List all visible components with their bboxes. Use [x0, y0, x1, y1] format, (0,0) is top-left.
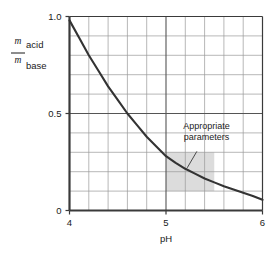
figure-container: 45600.51.0 Appropriate parameters pH m a… [0, 0, 279, 258]
ph-ratio-chart: 45600.51.0 Appropriate parameters pH m a… [0, 0, 279, 258]
fraction-numerator-subscript: acid [26, 39, 43, 50]
annotation-line-1: Appropriate [183, 121, 230, 131]
fraction-denominator-subscript: base [26, 60, 47, 71]
annotation-line-2: parameters [184, 132, 230, 142]
x-tick-label: 5 [163, 217, 168, 228]
x-axis-label: pH [160, 233, 172, 244]
fraction-denominator-symbol: m [15, 55, 22, 65]
x-tick-label: 6 [260, 217, 265, 228]
y-tick-label: 0 [56, 205, 61, 216]
fraction-numerator-symbol: m [15, 36, 22, 46]
y-tick-label: 0.5 [48, 108, 61, 119]
x-tick-label: 4 [67, 217, 72, 228]
y-tick-label: 1.0 [48, 11, 61, 22]
